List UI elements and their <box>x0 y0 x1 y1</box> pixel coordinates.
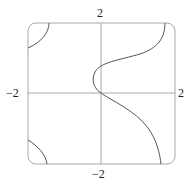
x-min-label: −2 <box>6 87 19 99</box>
curve-lower-left <box>28 140 47 164</box>
y-min-label: −2 <box>92 168 105 180</box>
x-max-label: 2 <box>178 87 184 99</box>
curve-upper-left <box>28 23 49 48</box>
plot <box>0 0 196 181</box>
y-max-label: 2 <box>97 7 103 19</box>
